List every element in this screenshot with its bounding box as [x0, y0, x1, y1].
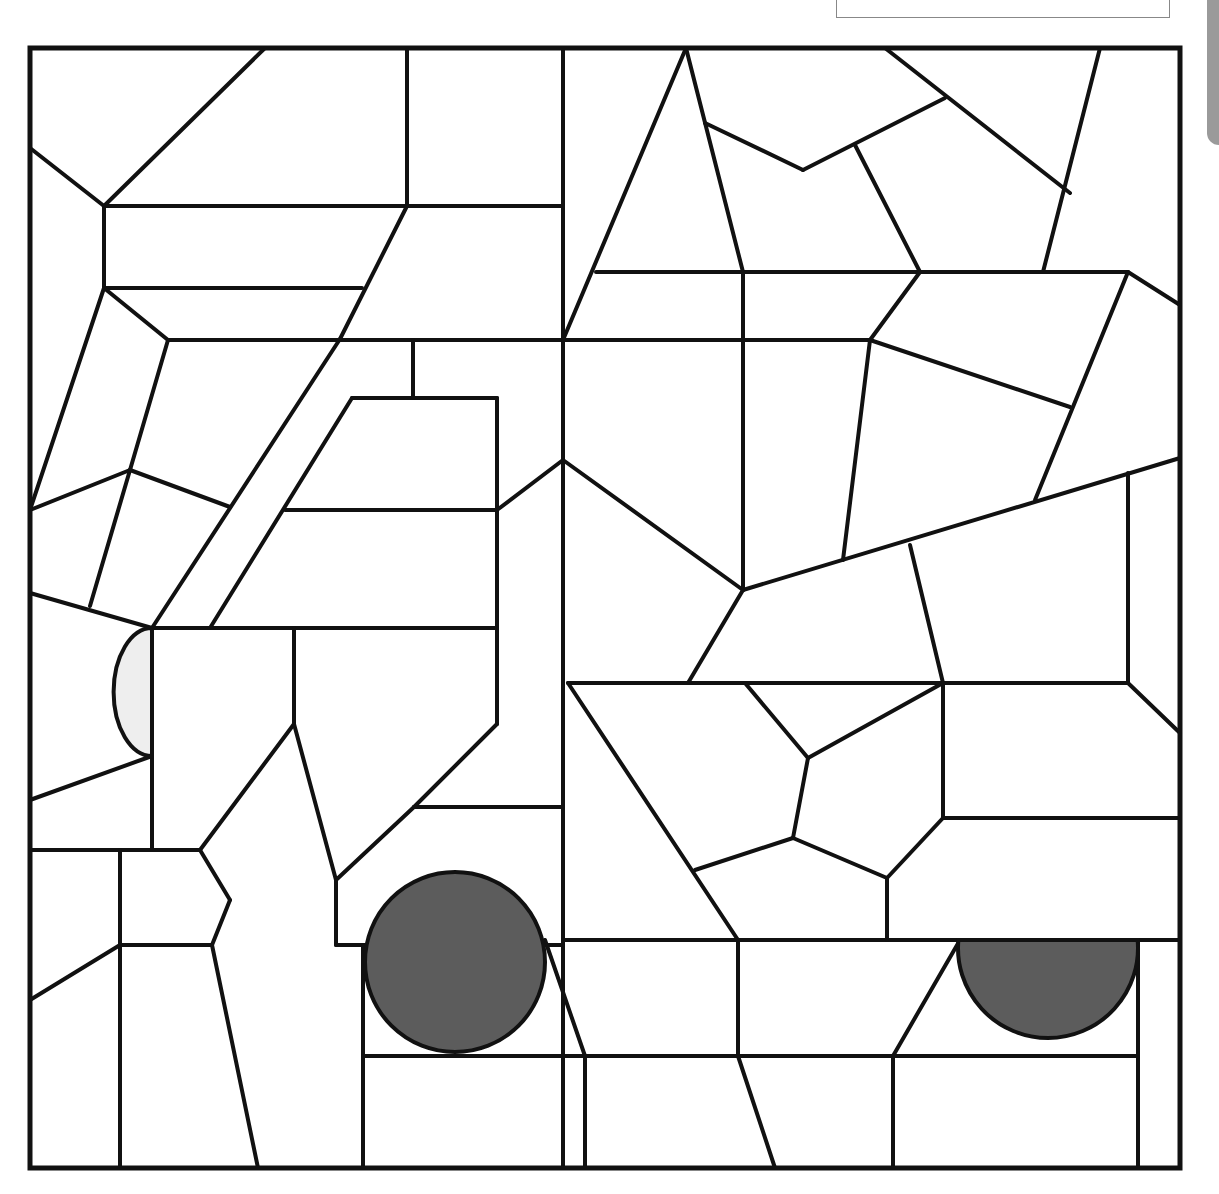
rear-wheel-shape [958, 940, 1138, 1038]
mosaic-line [104, 288, 168, 340]
mosaic-line [843, 340, 870, 560]
mosaic-line [294, 724, 336, 880]
mosaic-line [340, 206, 407, 339]
mosaic-line [745, 683, 808, 758]
mosaic-line [30, 470, 130, 510]
mosaic-line [152, 339, 340, 628]
mosaic-line [793, 758, 808, 838]
mosaic-line [104, 48, 265, 206]
mosaic-line [893, 940, 960, 1056]
mosaic-line [497, 460, 563, 510]
mosaic-line [870, 272, 920, 340]
mosaic-line [738, 1056, 775, 1168]
mosaic-line [30, 756, 152, 800]
mosaic-line [1035, 272, 1128, 500]
mosaic-line [887, 818, 943, 878]
mosaic-line [885, 48, 1070, 193]
mosaic-line [855, 145, 920, 272]
front-wheel-shape [365, 872, 545, 1052]
mosaic-line [793, 838, 887, 878]
mosaic-line [563, 48, 686, 340]
mosaic-line [568, 683, 738, 940]
mosaic-line [200, 724, 294, 850]
mosaic-line [336, 807, 414, 880]
mosaic-line [803, 98, 945, 170]
mosaic-line [414, 724, 497, 807]
mosaic-line [695, 838, 793, 870]
mosaic-line [30, 148, 104, 206]
mosaic-line [563, 460, 743, 590]
mosaic-line [1043, 48, 1100, 272]
mosaic-line [705, 123, 803, 170]
mosaic-line [212, 900, 230, 945]
mosaic-line [743, 458, 1180, 590]
mosaic-line [688, 590, 743, 683]
mosaic-line [1128, 683, 1180, 733]
mosaic-line [90, 470, 130, 606]
wheels [365, 872, 1138, 1052]
mosaic-line [130, 340, 168, 470]
mosaic-line [212, 945, 258, 1168]
mosaic-line [1128, 272, 1180, 305]
mosaic-line [130, 470, 230, 507]
mosaic-line [870, 340, 1070, 407]
mosaic-line [686, 48, 743, 272]
mosaic-line [30, 945, 120, 1000]
mosaic-line [910, 545, 943, 683]
mosaic-line [200, 850, 230, 900]
mosaic-line [30, 288, 104, 510]
mosaic-line [808, 683, 943, 758]
headlight-shape [114, 628, 152, 756]
